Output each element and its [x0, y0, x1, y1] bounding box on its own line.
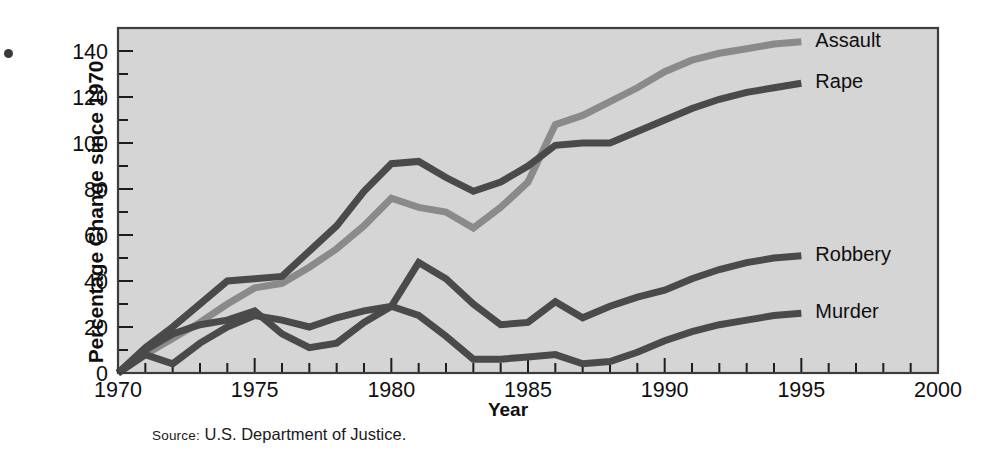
x-axis-title: Year	[0, 399, 1000, 421]
source-label: Source:	[152, 428, 200, 443]
y-axis-title: Percentage Change since 1970	[84, 52, 108, 372]
chart-figure: Percentage Change since 1970 02040608010…	[0, 0, 1000, 464]
source-value: U.S. Department of Justice.	[200, 425, 406, 443]
line-chart-plot: 0204060801001201401970197519801985199019…	[0, 0, 1000, 464]
series-label-murder: Murder	[815, 300, 879, 322]
source-note: Source: U.S. Department of Justice.	[152, 425, 406, 444]
series-label-robbery: Robbery	[815, 243, 891, 265]
margin-bullet-icon	[4, 49, 13, 58]
series-label-rape: Rape	[815, 70, 863, 92]
series-label-assault: Assault	[815, 29, 881, 51]
x-axis-title-text: Year	[488, 399, 528, 421]
